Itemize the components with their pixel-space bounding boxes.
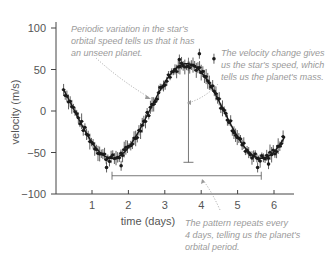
data-point [218,97,221,100]
data-point [103,152,106,155]
arrow-period [203,180,220,210]
data-point [265,154,268,157]
data-point [77,116,80,119]
data-point [267,162,271,166]
data-point [214,92,217,95]
x-tick-label: 5 [235,199,241,211]
data-point [208,81,211,84]
data-point [82,129,85,132]
data-point [263,157,266,160]
data-point [205,75,208,78]
arrowhead-velocity-icon [187,100,191,105]
data-point [87,134,90,137]
x-axis-title: time (days) [121,215,175,227]
annotation-arrows [96,58,220,210]
period-bar [112,172,261,180]
annotation-velocity: The velocity change gives us the star's … [221,48,325,82]
y-ticks: 100500−50−100 [21,22,56,200]
data-point [72,106,75,109]
data-point [282,135,285,138]
annotation-velocity-line-3: tells us the planet's mass. [221,72,324,82]
y-tick-label: 100 [28,22,46,34]
data-point [256,166,260,170]
x-tick-label: 3 [162,199,168,211]
y-tick-label: −50 [27,147,46,159]
data-point [223,109,226,112]
data-point [168,76,171,79]
data-point [131,142,134,145]
data-point [152,103,155,106]
data-point [224,112,227,115]
data-point [198,66,201,69]
data-point [80,120,83,123]
data-point [212,57,216,61]
data-point [111,153,114,156]
y-tick-label: −100 [21,188,46,200]
data-point [164,83,167,86]
data-point [270,153,273,156]
data-point [147,114,150,117]
data-point [211,84,214,87]
annotation-velocity-line-2: us the star's speed, which [221,60,324,70]
annotation-period: The pattern repeats every 4 days, tellin… [185,218,301,252]
data-point [239,137,242,140]
x-tick-label: 2 [125,199,131,211]
annotation-period-line-3: orbital period. [185,242,240,252]
data-point [149,106,152,109]
data-point [175,70,178,73]
y-axis-title: velocity (m/s) [9,80,21,145]
data-point [65,95,68,98]
data-point [259,159,262,162]
x-ticks: 123456 [89,190,277,211]
data-point [157,91,160,94]
data-point [144,120,147,123]
data-point [198,52,202,56]
data-point [193,65,196,68]
y-tick-label: 0 [40,105,46,117]
data-point [108,160,111,163]
data-point [275,150,278,153]
data-point [119,164,123,168]
data-point [95,148,98,151]
data-point [106,156,109,159]
x-tick-label: 1 [89,199,95,211]
data-point [139,129,142,132]
annotation-periodic: Periodic variation in the star's orbital… [71,24,195,58]
data-point [201,70,204,73]
data-point [62,88,65,91]
radial-velocity-chart: 100500−50−100 123456 velocity (m/s) time… [0,0,328,263]
data-point [229,119,232,122]
data-point [75,112,78,115]
annotation-period-line-1: The pattern repeats every [185,218,289,228]
data-point [105,166,109,170]
data-point [280,142,283,145]
data-point [272,149,275,152]
data-point [69,100,72,103]
data-point [178,65,181,68]
data-point [278,145,281,148]
data-point [141,124,144,127]
arrow-periodic [96,58,150,98]
x-tick-label: 6 [271,199,277,211]
data-point [180,62,183,65]
data-point [121,154,124,157]
data-point [118,156,121,159]
data-point [136,136,139,139]
data-point [242,142,245,145]
arrowhead-period-icon [201,179,205,184]
data-point [178,58,182,62]
data-point [83,126,86,129]
annotation-periodic-line-2: orbital speed tells us that it has [71,36,195,46]
y-tick-label: 50 [34,64,46,76]
annotation-periodic-line-3: an unseen planet. [71,48,143,58]
data-point [195,69,198,72]
data-point [155,98,158,101]
data-point [254,152,257,155]
data-point [165,80,168,83]
data-point [91,142,94,145]
data-point [249,153,252,156]
annotation-period-line-2: 4 days, telling us the planet's [185,230,301,240]
annotation-periodic-line-1: Periodic variation in the star's [71,24,189,34]
data-point [146,111,149,114]
arrowhead-periodic-icon [145,95,151,99]
